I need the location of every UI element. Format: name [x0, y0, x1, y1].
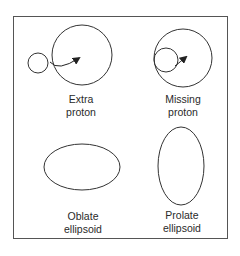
prolate-ellipse	[158, 127, 204, 205]
large-circle	[154, 29, 212, 87]
prolate-label-1: Prolate	[165, 209, 198, 221]
oblate-label-1: Oblate	[68, 210, 99, 222]
diagram-canvas: Extra proton Missing proton Oblate ellip…	[0, 0, 240, 256]
large-circle	[52, 25, 112, 85]
missing-proton-label-2: proton	[168, 106, 198, 118]
prolate-label-2: ellipsoid	[163, 222, 201, 234]
frame	[14, 17, 228, 239]
extra-proton-label-1: Extra	[69, 93, 94, 105]
missing-proton-label-1: Missing	[165, 93, 201, 105]
extra-proton-label-2: proton	[66, 106, 96, 118]
arrow-icon	[50, 58, 79, 66]
hole-circle	[154, 48, 178, 72]
oblate-ellipse	[44, 144, 120, 190]
oblate-label-2: ellipsoid	[64, 223, 102, 235]
small-circle	[28, 53, 48, 73]
missing-proton-figure	[154, 29, 212, 87]
extra-proton-figure	[28, 25, 112, 85]
arrow-icon	[175, 57, 186, 66]
